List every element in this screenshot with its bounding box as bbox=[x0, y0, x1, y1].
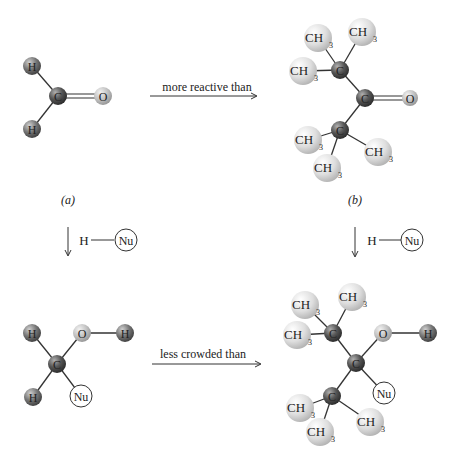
methyl-group: CH3 bbox=[348, 18, 377, 46]
reagent-arrow-left: H Nu bbox=[65, 227, 137, 256]
oxygen-atom: O bbox=[73, 324, 91, 342]
reagent-nu: Nu bbox=[405, 234, 420, 248]
svg-text:H: H bbox=[28, 123, 37, 137]
methyl-group: CH3 bbox=[289, 57, 318, 85]
svg-text:C: C bbox=[54, 90, 62, 104]
svg-text:3: 3 bbox=[319, 143, 323, 152]
carbonyl-carbon-atom: C bbox=[356, 89, 374, 107]
svg-text:3: 3 bbox=[389, 155, 393, 164]
svg-text:3: 3 bbox=[338, 171, 342, 180]
svg-text:C: C bbox=[352, 357, 360, 371]
svg-text:Nu: Nu bbox=[377, 387, 392, 401]
more-reactive-label: more reactive than bbox=[162, 80, 251, 94]
svg-text:3: 3 bbox=[329, 41, 333, 50]
svg-text:CH: CH bbox=[365, 144, 383, 159]
svg-text:CH: CH bbox=[339, 289, 357, 304]
reagent-nu: Nu bbox=[119, 234, 134, 248]
svg-text:CH: CH bbox=[287, 400, 305, 415]
svg-text:3: 3 bbox=[316, 308, 320, 317]
carbon-atom: C bbox=[331, 121, 349, 139]
carbon-atom: C bbox=[324, 324, 342, 342]
svg-text:CH: CH bbox=[349, 24, 367, 39]
svg-text:CH: CH bbox=[357, 414, 375, 429]
svg-text:CH: CH bbox=[314, 160, 332, 175]
central-carbon-atom: C bbox=[347, 354, 365, 372]
carbon-atom: C bbox=[331, 61, 349, 79]
svg-text:H: H bbox=[121, 327, 130, 341]
carbon-atom: C bbox=[48, 355, 66, 373]
svg-text:3: 3 bbox=[314, 74, 318, 83]
svg-text:H: H bbox=[424, 327, 433, 341]
svg-text:O: O bbox=[379, 327, 388, 341]
oxygen-atom: O bbox=[402, 90, 418, 106]
hydrogen-atom: H bbox=[24, 388, 42, 406]
methyl-group: CH3 bbox=[356, 408, 385, 436]
less-crowded-arrow: less crowded than bbox=[152, 347, 261, 367]
svg-text:3: 3 bbox=[381, 425, 385, 434]
reaction-diagram: H H C O more reactive than CH3 CH3 CH3 C… bbox=[0, 0, 461, 466]
methyl-group: CH3 bbox=[338, 283, 367, 311]
svg-text:H: H bbox=[28, 60, 37, 74]
nucleophile: Nu bbox=[70, 385, 92, 407]
svg-text:Nu: Nu bbox=[74, 390, 89, 404]
caption-a: (a) bbox=[61, 193, 75, 207]
hydrogen-atom: H bbox=[23, 120, 41, 138]
hydrogen-atom: H bbox=[23, 324, 41, 342]
svg-text:C: C bbox=[328, 390, 336, 404]
methyl-group: CH3 bbox=[283, 321, 312, 349]
product-b-molecule: CH3 CH3 CH3 CH3 CH3 CH3 C C C O H Nu bbox=[283, 283, 437, 446]
svg-text:CH: CH bbox=[295, 132, 313, 147]
ketone-molecule: CH3 CH3 CH3 CH3 CH3 CH3 C C C O bbox=[289, 18, 418, 182]
less-crowded-label: less crowded than bbox=[160, 347, 246, 361]
svg-text:3: 3 bbox=[373, 35, 377, 44]
product-a-molecule: H O H C H Nu bbox=[23, 324, 134, 407]
svg-text:C: C bbox=[336, 64, 344, 78]
svg-text:C: C bbox=[336, 124, 344, 138]
formaldehyde-molecule: H H C O bbox=[23, 57, 112, 138]
reagent-h: H bbox=[367, 233, 376, 248]
svg-text:CH: CH bbox=[284, 327, 302, 342]
carbon-atom: C bbox=[323, 387, 341, 405]
svg-text:3: 3 bbox=[363, 300, 367, 309]
nucleophile: Nu bbox=[373, 382, 395, 404]
methyl-group: CH3 bbox=[313, 154, 342, 182]
methyl-group: CH3 bbox=[286, 394, 315, 422]
svg-text:O: O bbox=[406, 92, 415, 106]
reagent-h: H bbox=[79, 233, 88, 248]
svg-text:O: O bbox=[99, 90, 108, 104]
methyl-group: CH3 bbox=[294, 126, 323, 154]
svg-text:O: O bbox=[78, 327, 87, 341]
methyl-group: CH3 bbox=[304, 24, 333, 52]
more-reactive-arrow: more reactive than bbox=[150, 80, 257, 99]
hydrogen-atom: H bbox=[419, 324, 437, 342]
svg-text:H: H bbox=[28, 327, 37, 341]
svg-text:CH: CH bbox=[307, 424, 325, 439]
svg-text:CH: CH bbox=[305, 30, 323, 45]
oxygen-atom: O bbox=[374, 324, 392, 342]
carbon-atom: C bbox=[49, 87, 67, 105]
svg-text:C: C bbox=[329, 327, 337, 341]
oxygen-atom: O bbox=[94, 87, 112, 105]
hydrogen-atom: H bbox=[23, 57, 41, 75]
caption-b: (b) bbox=[348, 193, 362, 207]
reagent-arrow-right: H Nu bbox=[352, 227, 423, 257]
svg-text:3: 3 bbox=[331, 435, 335, 444]
svg-text:CH: CH bbox=[292, 297, 310, 312]
methyl-group: CH3 bbox=[306, 418, 335, 446]
svg-text:H: H bbox=[29, 391, 38, 405]
svg-text:3: 3 bbox=[308, 338, 312, 347]
svg-text:C: C bbox=[361, 92, 369, 106]
svg-text:3: 3 bbox=[311, 411, 315, 420]
hydrogen-atom: H bbox=[116, 324, 134, 342]
methyl-group: CH3 bbox=[291, 291, 320, 319]
svg-text:C: C bbox=[53, 358, 61, 372]
methyl-group: CH3 bbox=[364, 138, 393, 166]
svg-text:CH: CH bbox=[290, 63, 308, 78]
